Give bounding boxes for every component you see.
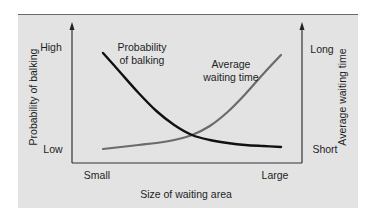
waiting-annotation-line1: Average (212, 58, 251, 70)
right-tick-long: Long (310, 43, 334, 55)
right-tick-short: Short (312, 143, 337, 155)
balking-annotation-line1: Probability (117, 41, 167, 53)
left-tick-low: Low (43, 143, 63, 155)
left-axis-arrow-icon (70, 22, 75, 30)
left-axis-title: Probability of balking (27, 48, 39, 145)
x-axis-title: Size of waiting area (140, 188, 232, 200)
x-tick-large: Large (262, 169, 289, 181)
x-tick-small: Small (84, 169, 110, 181)
chart-svg: High Low Long Short Small Large Size of … (0, 0, 378, 223)
waiting-annotation-line2: waiting time (202, 71, 259, 83)
left-tick-high: High (40, 41, 62, 53)
right-axis-title: Average waiting time (336, 48, 348, 145)
balking-annotation-line2: of balking (120, 54, 165, 66)
probability-of-balking-curve (103, 53, 281, 147)
axes (70, 22, 305, 163)
right-axis-arrow-icon (300, 22, 305, 30)
